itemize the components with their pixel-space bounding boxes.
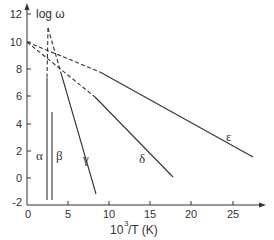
- label-gamma: γ: [82, 151, 89, 166]
- epsilon-solid: [100, 72, 253, 157]
- gamma-dashed: [48, 28, 61, 73]
- y-tick-12: 12: [10, 8, 22, 20]
- y-tick-4: 4: [16, 118, 22, 130]
- x-tick-25: 25: [227, 208, 239, 220]
- label-alpha: α: [36, 148, 43, 163]
- x-tick-0: 0: [25, 208, 31, 220]
- y-axis-title: log ω: [36, 7, 65, 21]
- y-axis-arrow-icon: [25, 3, 30, 10]
- x-axis-title: 10 3 /T (K): [110, 219, 158, 237]
- x-axis-title-base: 10: [110, 223, 124, 237]
- series-lines: [27, 28, 253, 200]
- y-tick-2: 2: [16, 145, 22, 157]
- label-delta: δ: [139, 151, 145, 166]
- x-tick-15: 15: [144, 208, 156, 220]
- x-tick-20: 20: [185, 208, 197, 220]
- x-tick-10: 10: [103, 208, 115, 220]
- y-tick-minus2: -2: [12, 196, 22, 208]
- log-omega-chart: 12 10 8 6 4 2 0 -2 0 5 10 15 20 25 log ω…: [0, 0, 274, 240]
- x-axis-arrow-icon: [259, 203, 266, 208]
- label-beta: β: [56, 148, 63, 163]
- chart-svg: 12 10 8 6 4 2 0 -2 0 5 10 15 20 25 log ω…: [0, 0, 274, 240]
- delta-solid: [95, 97, 173, 177]
- x-tick-5: 5: [65, 208, 71, 220]
- delta-dashed: [27, 42, 95, 97]
- axes: [25, 3, 267, 208]
- label-epsilon: ε: [226, 129, 232, 144]
- alpha-dashed: [47, 28, 48, 78]
- y-tick-10: 10: [10, 36, 22, 48]
- y-tick-labels: 12 10 8 6 4 2 0 -2: [10, 8, 22, 208]
- y-tick-8: 8: [16, 63, 22, 75]
- gamma-solid: [61, 73, 96, 194]
- y-tick-0: 0: [16, 172, 22, 184]
- x-tick-labels: 0 5 10 15 20 25: [25, 208, 239, 220]
- x-axis-title-rest: /T (K): [128, 223, 158, 237]
- epsilon-dashed: [27, 42, 100, 72]
- y-tick-6: 6: [16, 90, 22, 102]
- series-labels: α β γ δ ε: [36, 129, 232, 166]
